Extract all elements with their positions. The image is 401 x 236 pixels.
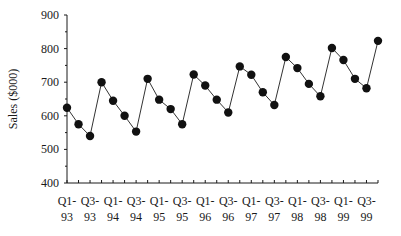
x-tick-label-line2: 99: [360, 210, 372, 224]
x-tick-label-line1: Q3-: [265, 194, 284, 208]
x-tick-label-line1: Q3-: [81, 194, 100, 208]
data-point-marker: [201, 81, 209, 89]
x-tick-label-line2: 94: [107, 210, 119, 224]
x-tick-label-line1: Q3-: [127, 194, 146, 208]
x-tick-label-line2: 97: [268, 210, 280, 224]
data-point-marker: [374, 37, 382, 45]
x-tick-label-line2: 98: [291, 210, 303, 224]
x-tick-label-line2: 96: [199, 210, 211, 224]
x-tick-label-line1: Q1-: [196, 194, 215, 208]
x-tick-label-line2: 94: [130, 210, 142, 224]
sales-line-chart: Sales ($000) 400500600700800900 Q1-93Q3-…: [0, 0, 401, 236]
data-point-marker: [166, 105, 174, 113]
x-tick-label-line1: Q3-: [219, 194, 238, 208]
data-point-marker: [339, 56, 347, 64]
y-tick-label: 600: [41, 109, 59, 123]
x-tick-label-line2: 95: [153, 210, 165, 224]
data-point-marker: [316, 92, 324, 100]
x-tick-label-line1: Q1-: [288, 194, 307, 208]
x-tick-label-line1: Q1-: [242, 194, 261, 208]
data-point-marker: [305, 80, 313, 88]
data-point-marker: [236, 62, 244, 70]
y-tick-label: 700: [41, 75, 59, 89]
data-point-marker: [178, 120, 186, 128]
x-tick-label-line1: Q1-: [334, 194, 353, 208]
x-tick-label-line2: 99: [337, 210, 349, 224]
y-axis-title-group: Sales ($000): [6, 69, 20, 129]
data-point-marker: [86, 132, 94, 140]
data-point-marker: [63, 104, 71, 112]
y-tick-label: 400: [41, 176, 59, 190]
data-point-marker: [259, 88, 267, 96]
y-axis: 400500600700800900: [41, 8, 67, 190]
data-point-marker: [362, 84, 370, 92]
data-point-marker: [155, 95, 163, 103]
plot-area: [63, 37, 382, 140]
series-line: [67, 41, 378, 136]
x-tick-label-line1: Q1-: [58, 194, 77, 208]
data-point-marker: [143, 75, 151, 83]
x-axis: Q1-93Q3-93Q1-94Q3-94Q1-95Q3-95Q1-96Q3-96…: [58, 180, 378, 224]
x-tick-label-line1: Q1-: [150, 194, 169, 208]
x-tick-label-line2: 97: [245, 210, 257, 224]
y-tick-label: 800: [41, 42, 59, 56]
y-axis-title: Sales ($000): [6, 69, 20, 129]
y-tick-label: 500: [41, 142, 59, 156]
data-point-marker: [120, 112, 128, 120]
data-point-marker: [351, 75, 359, 83]
x-tick-label-line1: Q3-: [173, 194, 192, 208]
y-tick-label: 900: [41, 8, 59, 22]
data-point-marker: [109, 96, 117, 104]
data-point-marker: [293, 64, 301, 72]
x-tick-label-line2: 96: [222, 210, 234, 224]
data-point-marker: [224, 108, 232, 116]
data-point-marker: [97, 78, 105, 86]
x-tick-label-line2: 93: [84, 210, 96, 224]
data-point-marker: [270, 101, 278, 109]
data-point-marker: [213, 95, 221, 103]
x-tick-label-line2: 95: [176, 210, 188, 224]
x-tick-label-line2: 93: [61, 210, 73, 224]
data-point-marker: [247, 71, 255, 79]
x-tick-label-line1: Q3-: [357, 194, 376, 208]
x-tick-label-line2: 98: [314, 210, 326, 224]
data-point-marker: [74, 120, 82, 128]
data-point-marker: [328, 44, 336, 52]
data-point-marker: [190, 70, 198, 78]
x-tick-label-line1: Q1-: [104, 194, 123, 208]
data-point-marker: [282, 53, 290, 61]
data-point-marker: [132, 127, 140, 135]
x-tick-label-line1: Q3-: [311, 194, 330, 208]
